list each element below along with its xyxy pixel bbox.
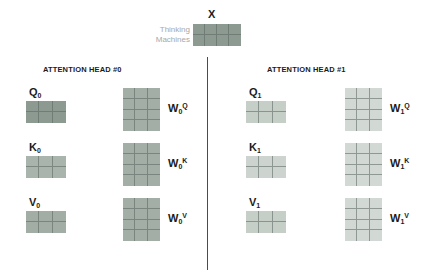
k0-sub: 0 <box>37 147 41 154</box>
matrix-cell <box>246 222 259 233</box>
input-tokens: Thinking Machines <box>145 25 190 44</box>
matrix-label-v1: V1 <box>249 197 260 208</box>
matrix-cell <box>193 24 205 35</box>
matrix-cell <box>345 99 357 110</box>
matrix-cell <box>246 101 259 112</box>
matrix-cell <box>345 154 357 165</box>
wq0-sub: 0 <box>178 108 182 115</box>
wk1-sub: 1 <box>400 163 404 170</box>
matrix-cell <box>53 156 66 167</box>
matrix-cell <box>370 209 382 220</box>
matrix-cell <box>357 175 369 186</box>
matrix-cell <box>357 198 369 209</box>
k0-letter: K <box>29 141 37 153</box>
matrix-cell <box>53 112 66 123</box>
q0-sub: 0 <box>38 92 42 99</box>
matrix-cell <box>39 112 52 123</box>
q1-letter: Q <box>249 86 258 98</box>
matrix-cell <box>357 220 369 231</box>
matrix-cell <box>148 99 160 110</box>
matrix-cell <box>273 101 286 112</box>
wv1-sup: V <box>404 212 409 219</box>
matrix-cell <box>345 88 357 99</box>
matrix-cell <box>370 165 382 176</box>
matrix-cell <box>246 156 259 167</box>
matrix-cell <box>135 110 147 121</box>
matrix-cell <box>123 154 135 165</box>
matrix-cell <box>246 167 259 178</box>
matrix-cell <box>370 88 382 99</box>
wv0-sup: V <box>182 212 187 219</box>
k1-sub: 1 <box>257 147 261 154</box>
matrix-cell <box>345 209 357 220</box>
wv1-sub: 1 <box>400 218 404 225</box>
matrix-cell <box>273 112 286 123</box>
matrix-label-wv0: W0V <box>168 213 187 224</box>
matrix-cell <box>26 112 39 123</box>
matrix-cell <box>259 112 272 123</box>
matrix-q1 <box>246 101 286 123</box>
wq0-letter: W <box>168 102 178 114</box>
wk0-sup: K <box>182 157 187 164</box>
token-line-1: Thinking <box>145 25 190 35</box>
matrix-cell <box>123 209 135 220</box>
matrix-cell <box>357 154 369 165</box>
matrix-cell <box>259 156 272 167</box>
matrix-cell <box>259 222 272 233</box>
matrix-cell <box>148 88 160 99</box>
matrix-v1 <box>246 211 286 233</box>
matrix-cell <box>370 220 382 231</box>
matrix-wq0 <box>123 88 160 131</box>
wv1-letter: W <box>390 212 400 224</box>
matrix-cell <box>148 230 160 241</box>
matrix-cell <box>148 209 160 220</box>
v1-sub: 1 <box>256 202 260 209</box>
matrix-cell <box>229 35 241 46</box>
matrix-cell <box>123 175 135 186</box>
matrix-cell <box>26 156 39 167</box>
matrix-wv0 <box>123 198 160 241</box>
matrix-wk0 <box>123 143 160 186</box>
matrix-cell <box>345 165 357 176</box>
matrix-cell <box>205 24 217 35</box>
input-matrix-x <box>193 24 241 46</box>
matrix-cell <box>273 222 286 233</box>
wk0-sub: 0 <box>178 163 182 170</box>
matrix-cell <box>217 35 229 46</box>
matrix-v0 <box>26 211 66 233</box>
matrix-cell <box>148 143 160 154</box>
matrix-cell <box>53 211 66 222</box>
matrix-cell <box>53 167 66 178</box>
matrix-cell <box>39 211 52 222</box>
wk1-letter: W <box>390 157 400 169</box>
matrix-cell <box>370 99 382 110</box>
matrix-cell <box>357 88 369 99</box>
wk1-sup: K <box>404 157 409 164</box>
matrix-cell <box>273 211 286 222</box>
matrix-cell <box>135 88 147 99</box>
matrix-cell <box>39 222 52 233</box>
matrix-cell <box>135 154 147 165</box>
matrix-cell <box>217 24 229 35</box>
input-matrix-label: X <box>208 8 215 20</box>
matrix-cell <box>135 143 147 154</box>
wq1-sup: Q <box>404 102 409 109</box>
matrix-cell <box>193 35 205 46</box>
matrix-label-v0: V0 <box>29 197 40 208</box>
matrix-cell <box>135 220 147 231</box>
matrix-cell <box>370 143 382 154</box>
v0-sub: 0 <box>36 202 40 209</box>
diagram-canvas: X Thinking Machines ATTENTION HEAD #0 AT… <box>0 0 432 279</box>
matrix-cell <box>259 101 272 112</box>
wk0-letter: W <box>168 157 178 169</box>
matrix-cell <box>370 110 382 121</box>
head-divider <box>207 57 208 270</box>
matrix-cell <box>345 230 357 241</box>
matrix-cell <box>229 24 241 35</box>
matrix-cell <box>370 120 382 131</box>
matrix-cell <box>259 211 272 222</box>
matrix-cell <box>370 230 382 241</box>
matrix-k0 <box>26 156 66 178</box>
matrix-cell <box>123 99 135 110</box>
matrix-wk1 <box>345 143 382 186</box>
